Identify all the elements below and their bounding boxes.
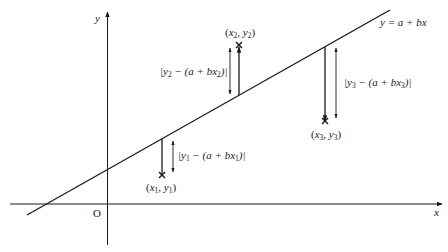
point-1-group (159, 139, 173, 178)
point-3-residual-post: )| (405, 76, 412, 88)
point-2-residual-mid: − (a + bx (172, 65, 217, 77)
point-1-residual-mid: − (a + bx (190, 149, 235, 161)
regression-line-label: y = a + bx (380, 17, 427, 28)
x-axis-label: x (434, 207, 439, 218)
point-2-coordinate-label: (x2, y2) (225, 27, 255, 40)
point-1-coordinate-label: (x1, y1) (146, 182, 176, 195)
point-1-y-sub: 1 (169, 186, 173, 195)
point-1-residual-pre: |y (178, 149, 186, 161)
point-3-residual-mid: − (a + bx (356, 76, 401, 88)
point-3-group (322, 47, 336, 124)
diagram-svg (0, 0, 448, 252)
point-3-residual-label: |y3 − (a + bx3)| (344, 77, 412, 90)
point-2-residual-label: |y2 − (a + bx2)| (160, 66, 228, 79)
point-2-group (230, 42, 242, 95)
point-1-residual-label: |y1 − (a + bx1)| (178, 150, 246, 163)
point-3-y-sub: 3 (334, 133, 338, 142)
least-squares-diagram: y x O y = a + bx (x1, y1) |y1 − (a + bx1… (0, 0, 448, 252)
point-3-coordinate-label: (x3, y3) (311, 129, 341, 142)
point-2-residual-post: )| (221, 65, 228, 77)
point-2-residual-pre: |y (160, 65, 168, 77)
point-3-residual-pre: |y (344, 76, 352, 88)
origin-label: O (93, 208, 101, 219)
y-axis-label: y (95, 13, 100, 24)
point-2-y-sub: 2 (248, 31, 252, 40)
point-1-residual-post: )| (239, 149, 246, 161)
